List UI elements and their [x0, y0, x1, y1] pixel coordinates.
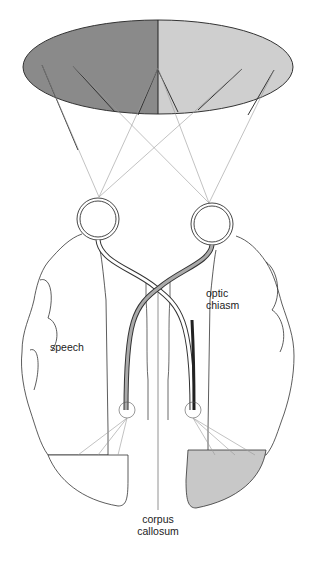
callosum-label-line2: callosum	[128, 525, 188, 537]
corpus-label-line1: corpus	[128, 513, 188, 525]
left-hemisphere	[21, 234, 128, 506]
brain-visual-pathway-diagram	[0, 0, 314, 566]
right-hemisphere	[186, 236, 294, 508]
optic-tracts	[98, 240, 212, 410]
corpus-callosum	[146, 280, 170, 510]
right-eye	[191, 203, 233, 245]
optic-chiasm-label: optic chiasm	[206, 287, 239, 311]
left-eye	[77, 198, 119, 240]
speech-label: speech	[50, 341, 84, 353]
optic-label-line1: optic	[206, 287, 239, 299]
chiasm-label-line2: chiasm	[206, 299, 239, 311]
corpus-callosum-label: corpus callosum	[128, 513, 188, 537]
